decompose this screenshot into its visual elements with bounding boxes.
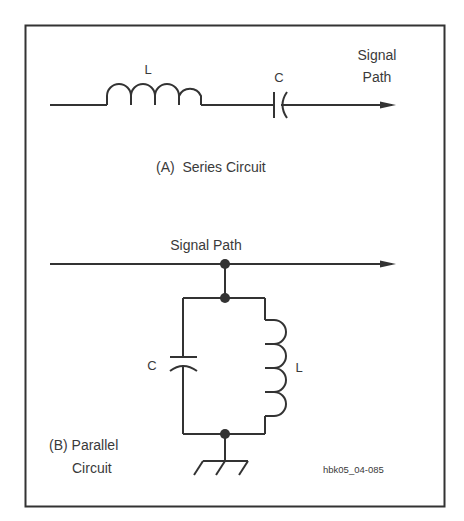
series-caption: (A) Series Circuit <box>156 159 266 175</box>
series-circuit <box>50 84 392 118</box>
figure-id: hbk05_04-085 <box>323 464 384 475</box>
parallel-caption-2: Circuit <box>72 460 112 476</box>
parallel-arrow-icon <box>380 261 396 268</box>
ground-icon <box>194 461 248 475</box>
series-arrow-icon <box>380 102 396 109</box>
parallel-caption-1: (B) Parallel <box>49 437 118 453</box>
series-capacitor-label: C <box>274 70 283 85</box>
junction-dot-bottom <box>220 429 230 439</box>
parallel-capacitor-label: C <box>147 358 156 373</box>
series-signal-label-2: Path <box>363 69 392 85</box>
junction-dot-signal <box>220 259 230 269</box>
parallel-signal-label: Signal Path <box>170 237 242 253</box>
parallel-inductor-icon <box>265 320 286 416</box>
series-inductor-icon <box>107 84 201 105</box>
parallel-inductor-label: L <box>295 360 302 375</box>
series-signal-label-1: Signal <box>358 47 397 63</box>
junction-dot-top <box>220 293 230 303</box>
series-inductor-label: L <box>144 62 151 77</box>
circuit-diagram: L C Signal Path (A) Series Circuit <box>0 0 464 521</box>
